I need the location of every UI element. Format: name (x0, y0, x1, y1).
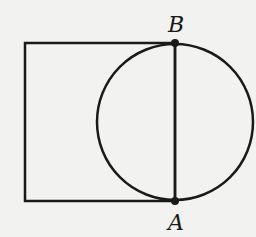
point-a-dot (171, 197, 179, 205)
geometry-figure: B A (0, 0, 256, 237)
point-b-label: B (167, 12, 184, 37)
point-a-label: A (166, 210, 184, 235)
rectangle (25, 43, 175, 201)
point-b-dot (171, 39, 179, 47)
diagram-canvas: B A (0, 0, 256, 237)
